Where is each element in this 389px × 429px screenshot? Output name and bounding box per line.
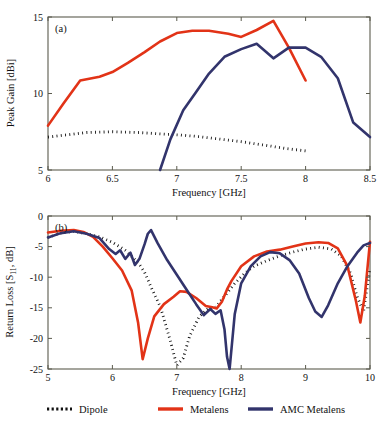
y-tick-label: 5 (38, 165, 43, 176)
panel-a-x-axis-title: Frequency [GHz] (172, 187, 246, 198)
panel-b-x-axis-title: Frequency [GHz] (172, 386, 246, 397)
x-tick-label: 8.5 (364, 173, 377, 184)
y-tick-label: -15 (30, 302, 43, 313)
x-tick-label: 9 (303, 372, 308, 383)
panel-a-plot-frame (48, 17, 370, 170)
y-tick-label: 15 (33, 12, 43, 23)
legend-label-dipole: Dipole (79, 404, 108, 415)
x-tick-label: 6.5 (106, 173, 119, 184)
panel-b-label: (b) (55, 222, 68, 234)
y-tick-label: -10 (30, 272, 43, 283)
y-tick-label: -5 (35, 241, 43, 252)
panel-b: 5678910 0-5-10-15-20-25 (b) Frequency [G… (4, 211, 375, 398)
panel-a-y-axis-title: Peak Gain [dBi] (5, 59, 16, 127)
x-tick-label: 7 (174, 173, 179, 184)
x-tick-label: 6 (110, 372, 115, 383)
x-tick-label: 7 (174, 372, 179, 383)
x-tick-label: 7.5 (235, 173, 248, 184)
x-tick-label: 5 (46, 372, 51, 383)
x-tick-label: 10 (365, 372, 375, 383)
figure-container: 66.577.588.5 51015 (a) Frequency [GHz] P… (0, 0, 389, 429)
y-tick-label: 10 (33, 88, 43, 99)
y-tick-label: -25 (30, 364, 43, 375)
panel-a: 66.577.588.5 51015 (a) Frequency [GHz] P… (5, 12, 376, 199)
x-tick-label: 8 (303, 173, 308, 184)
figure-svg: 66.577.588.5 51015 (a) Frequency [GHz] P… (0, 0, 389, 429)
legend-label-metalens: Metalens (190, 404, 229, 415)
x-tick-label: 6 (46, 173, 51, 184)
x-tick-label: 8 (239, 372, 244, 383)
y-tick-label: 0 (38, 211, 43, 222)
legend-label-amc-metalens: AMC Metalens (280, 404, 345, 415)
legend: DipoleMetalensAMC Metalens (47, 404, 345, 415)
y-tick-label: -20 (30, 333, 43, 344)
panel-a-label: (a) (55, 23, 67, 35)
